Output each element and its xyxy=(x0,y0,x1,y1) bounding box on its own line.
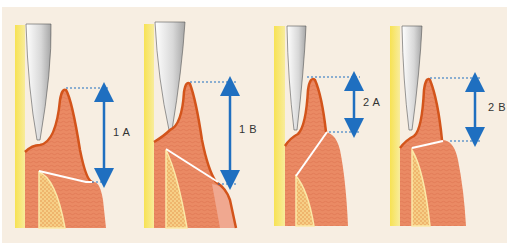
tooth-root xyxy=(144,24,154,228)
tooth-root xyxy=(390,26,400,226)
tooth-root xyxy=(15,25,25,228)
label-2b: 2 B xyxy=(488,101,506,113)
label-1b: 1 B xyxy=(239,123,257,135)
label-1a: 1 A xyxy=(113,126,130,138)
label-2a: 2 A xyxy=(363,96,380,108)
tooth-root xyxy=(274,26,285,226)
